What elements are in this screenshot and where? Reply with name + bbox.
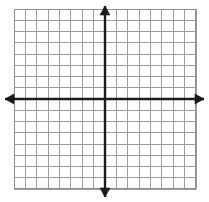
coordinate-grid-figure — [0, 0, 209, 202]
graph-canvas — [0, 0, 209, 202]
